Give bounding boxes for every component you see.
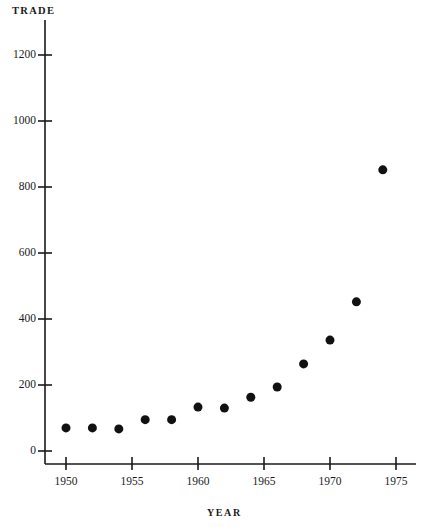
x-tick-label: 1975 xyxy=(374,476,418,488)
data-point xyxy=(88,423,97,432)
y-tick-label: 1000 xyxy=(2,115,36,127)
data-points xyxy=(62,165,388,433)
y-tick-label: 800 xyxy=(2,181,36,193)
x-tick-label: 1955 xyxy=(110,476,154,488)
y-tick-label: 1200 xyxy=(2,49,36,61)
plot-area xyxy=(0,0,432,527)
y-tick-label: 600 xyxy=(2,247,36,259)
data-point xyxy=(299,359,308,368)
data-point xyxy=(352,297,361,306)
data-point xyxy=(378,165,387,174)
y-tick-label: 200 xyxy=(2,379,36,391)
data-point xyxy=(141,415,150,424)
data-point xyxy=(246,393,255,402)
data-point xyxy=(114,424,123,433)
scatter-chart: TRADE YEAR 020040060080010001200 1950195… xyxy=(0,0,432,527)
data-point xyxy=(167,415,176,424)
x-tick-label: 1950 xyxy=(44,476,88,488)
y-tick-label: 0 xyxy=(2,445,36,457)
x-tick-label: 1965 xyxy=(242,476,286,488)
y-tick-label: 400 xyxy=(2,313,36,325)
data-point xyxy=(273,382,282,391)
x-tick-label: 1960 xyxy=(176,476,220,488)
data-point xyxy=(62,423,71,432)
x-tick-label: 1970 xyxy=(308,476,352,488)
data-point xyxy=(220,404,229,413)
data-point xyxy=(326,336,335,345)
data-point xyxy=(194,403,203,412)
